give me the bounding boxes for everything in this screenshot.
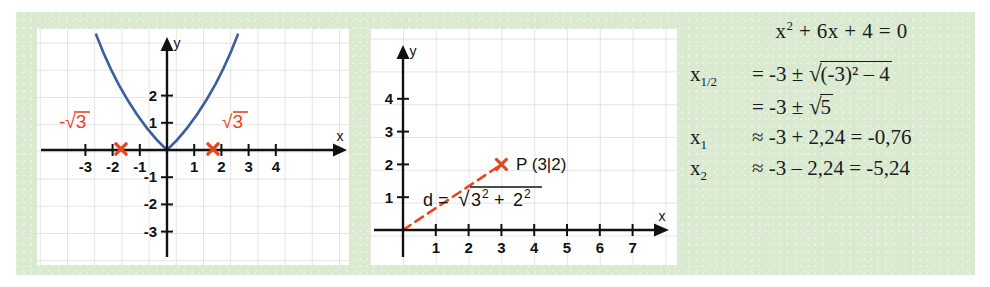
distance-formula-lhs: d = <box>423 190 449 210</box>
radical-group: √5 <box>809 93 833 120</box>
x-tick-label: 2 <box>464 239 472 256</box>
y-tick-label: 2 <box>149 87 157 104</box>
x-tick-label: -3 <box>79 158 92 175</box>
x-tick-label: 6 <box>596 239 604 256</box>
equation-lhs-subscript: 2 <box>701 169 708 184</box>
point-label-p: P (3|2) <box>516 155 566 174</box>
x-tick-label: 4 <box>530 239 539 256</box>
equation-row-x1: x1 ≈ -3 + 2,24 = -0,76 <box>690 125 975 153</box>
x-tick-label: 2 <box>217 158 225 175</box>
equation-row-simplified: = -3 ± √5 <box>690 93 975 120</box>
x-tick-label: 1 <box>190 158 198 175</box>
y-tick-label: -3 <box>144 223 157 240</box>
distance-graph-panel: 1 2 3 4 5 6 7 1 2 3 4 x y <box>370 29 677 265</box>
radical-group: √(-3)² – 4 <box>809 60 892 87</box>
left-root-label-text: -√3 <box>59 111 86 132</box>
x-axis-label: x <box>659 208 666 224</box>
y-tick-label: 3 <box>385 123 393 140</box>
x-tick-label: 3 <box>244 158 252 175</box>
equation-title-rest: + 6x + 4 = 0 <box>793 19 907 43</box>
math-figure: -3 -2 -1 1 2 3 4 2 1 -1 -2 -3 x y <box>0 0 990 287</box>
equation-title-term: x <box>775 19 786 43</box>
equation-lhs-subscript: 1/2 <box>701 74 718 89</box>
equation-lhs-base: x <box>690 62 701 86</box>
y-axis-label: y <box>174 35 181 51</box>
parabola-svg: -3 -2 -1 1 2 3 4 2 1 -1 -2 -3 x y <box>37 29 349 265</box>
left-root-label: -√3 <box>59 111 90 132</box>
equation-lhs: x1 <box>690 125 752 153</box>
right-root-label-text: √3 <box>222 111 243 132</box>
distance-svg: 1 2 3 4 5 6 7 1 2 3 4 x y <box>370 29 677 265</box>
equation-rhs: = -3 ± √5 <box>752 93 975 120</box>
equation-row-x2: x2 ≈ -3 – 2,24 = -5,24 <box>690 156 975 184</box>
equation-lhs-base: x <box>690 125 701 149</box>
radicand-plus-sign: + <box>494 190 505 210</box>
equation-rhs-prefix: = -3 ± <box>752 62 809 86</box>
x-tick-label: 7 <box>628 239 636 256</box>
y-tick-label: 1 <box>385 189 393 206</box>
y-tick-label: 1 <box>149 114 157 131</box>
x-axis-label: x <box>337 128 344 144</box>
equation-title: x2 + 6x + 4 = 0 <box>690 18 975 44</box>
x-tick-label: 4 <box>272 158 281 175</box>
y-tick-label: 2 <box>385 156 393 173</box>
parabola-gridlines <box>37 29 349 265</box>
equation-lhs: x2 <box>690 156 752 184</box>
equation-lhs-subscript: 1 <box>701 137 708 152</box>
equation-rhs-prefix: = -3 ± <box>752 95 809 119</box>
x-tick-label: -2 <box>106 158 119 175</box>
radicand-a: 3 <box>471 190 481 210</box>
y-tick-label: -2 <box>144 195 157 212</box>
equation-rhs: ≈ -3 – 2,24 = -5,24 <box>752 156 975 181</box>
radicand: 5 <box>820 94 834 120</box>
equation-lhs: x1/2 <box>690 62 752 90</box>
x-tick-label: 1 <box>432 239 440 256</box>
equation-row-x12: x1/2 = -3 ± √(-3)² – 4 <box>690 60 975 90</box>
equation-lhs-base: x <box>690 156 701 180</box>
parabola-graph-panel: -3 -2 -1 1 2 3 4 2 1 -1 -2 -3 x y <box>37 29 349 265</box>
x-tick-label: 5 <box>563 239 571 256</box>
y-tick-label: -1 <box>144 168 157 185</box>
y-axis-label: y <box>410 43 417 59</box>
equation-rhs: = -3 ± √(-3)² – 4 <box>752 60 975 87</box>
y-tick-label: 4 <box>385 90 394 107</box>
radicand-a-exponent: 2 <box>482 187 489 201</box>
radical-sign-icon: √ <box>458 187 470 210</box>
equation-block: x2 + 6x + 4 = 0 x1/2 = -3 ± √(-3)² – 4 =… <box>690 18 975 218</box>
radicand-b: 2 <box>513 190 523 210</box>
radicand-b-exponent: 2 <box>524 187 531 201</box>
radicand: (-3)² – 4 <box>820 61 892 87</box>
equation-rhs: ≈ -3 + 2,24 = -0,76 <box>752 125 975 150</box>
x-tick-label: 3 <box>497 239 505 256</box>
